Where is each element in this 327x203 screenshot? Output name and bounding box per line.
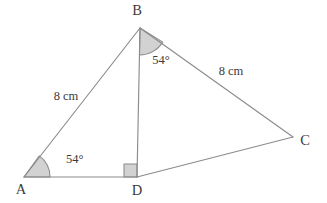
length-label-ab: 8 cm (54, 89, 79, 103)
segment-bc (140, 28, 293, 137)
length-label-bc: 8 cm (219, 64, 244, 78)
angle-b-label: 54° (152, 53, 170, 67)
angle-a-label: 54° (66, 152, 84, 166)
segment-dc (137, 137, 293, 177)
vertex-label-d: D (132, 182, 142, 198)
geometry-figure: A B C D 54° 54° 8 cm 8 cm (0, 0, 327, 203)
vertex-label-c: C (300, 132, 310, 148)
geometry-canvas: A B C D 54° 54° 8 cm 8 cm (0, 0, 327, 203)
vertex-label-b: B (132, 2, 142, 18)
angle-a-sector (24, 156, 50, 177)
vertex-label-a: A (16, 181, 27, 197)
segment-bd (137, 28, 140, 177)
right-angle-mark-d (124, 164, 137, 177)
